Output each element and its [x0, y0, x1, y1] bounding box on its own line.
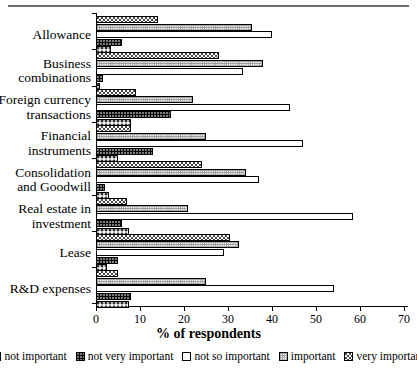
bar [96, 249, 224, 256]
bar [96, 125, 131, 132]
legend-item[interactable]: not important [0, 350, 67, 362]
category-label: Financial instruments [0, 129, 91, 158]
legend-item[interactable]: not so important [182, 350, 269, 362]
bar [96, 75, 103, 82]
legend-swatch-icon [182, 352, 191, 361]
x-tick-label: 10 [125, 312, 155, 327]
bar [96, 220, 122, 227]
bar [96, 16, 158, 23]
chart-figure: 010203040506070 AllowanceBusiness combin… [0, 0, 417, 380]
x-tick-label: 0 [81, 312, 111, 327]
x-tick [404, 306, 405, 311]
x-tick [272, 306, 273, 311]
x-tick-label: 40 [257, 312, 287, 327]
bar [96, 184, 105, 191]
legend-item[interactable]: important [279, 350, 336, 362]
bar [96, 169, 246, 176]
chart-legend: not importantnot very importantnot so im… [0, 350, 417, 362]
category-label: R&D expenses [0, 282, 91, 297]
bar [96, 133, 206, 140]
top-divider [8, 5, 409, 7]
bar [96, 257, 118, 264]
bar [96, 270, 118, 277]
legend-label: not so important [194, 350, 269, 362]
plot-area: 010203040506070 AllowanceBusiness combin… [0, 14, 417, 314]
category-label: Real estate in investment [0, 202, 91, 231]
bar [96, 213, 353, 220]
bar [96, 39, 122, 46]
bar [96, 148, 153, 155]
legend-item[interactable]: not very important [76, 350, 174, 362]
bar [96, 89, 136, 96]
x-tick [140, 306, 141, 311]
legend-swatch-icon [0, 352, 1, 361]
x-axis-line [96, 306, 408, 307]
legend-label: important [291, 350, 336, 362]
bar [96, 68, 243, 75]
bar [96, 241, 239, 248]
x-tick-label: 60 [345, 312, 375, 327]
y-tick [92, 13, 97, 14]
bar [96, 140, 303, 147]
bar [96, 104, 290, 111]
x-tick [360, 306, 361, 311]
legend-label: not very important [88, 350, 174, 362]
legend-swatch-icon [76, 352, 85, 361]
bar [96, 198, 127, 205]
bar [96, 176, 259, 183]
bar [96, 278, 206, 285]
bar [96, 161, 202, 168]
bar [96, 234, 230, 241]
x-tick-label: 70 [389, 312, 417, 327]
bar [96, 285, 334, 292]
category-label: Business combinations [0, 57, 91, 86]
bar [96, 111, 171, 118]
category-label: Lease [0, 246, 91, 261]
x-tick [228, 306, 229, 311]
legend-swatch-icon [344, 352, 353, 361]
bar [96, 24, 252, 31]
x-tick-label: 50 [301, 312, 331, 327]
x-axis-title: % of respondents [0, 326, 417, 342]
legend-label: not important [4, 350, 66, 362]
bar [96, 301, 129, 308]
legend-item[interactable]: very important [344, 350, 417, 362]
bar [96, 52, 219, 59]
category-label: Foreign currency transactions [0, 93, 91, 122]
bar [96, 96, 193, 103]
category-label: Consolidation and Goodwill [0, 166, 91, 195]
x-tick-label: 20 [169, 312, 199, 327]
bar [96, 60, 263, 67]
x-tick-label: 30 [213, 312, 243, 327]
bar [96, 31, 272, 38]
bar [96, 293, 131, 300]
x-tick [184, 306, 185, 311]
x-tick [316, 306, 317, 311]
category-label: Allowance [0, 28, 91, 43]
legend-label: very important [356, 350, 417, 362]
legend-swatch-icon [279, 352, 288, 361]
bar [96, 205, 188, 212]
